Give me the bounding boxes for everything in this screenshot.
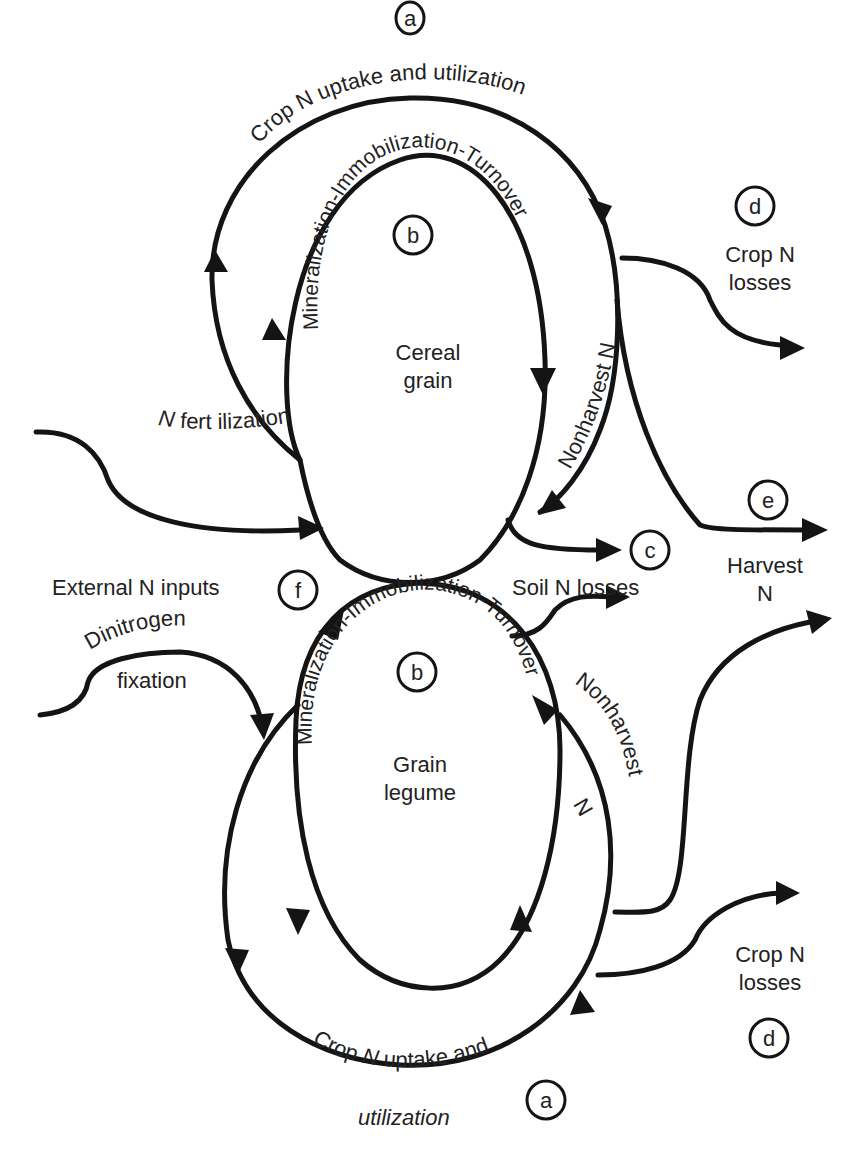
fixation-label: fixation bbox=[117, 668, 187, 693]
marker-d-bottom: d bbox=[750, 1019, 788, 1057]
nonharvest-bottom-n-label: N bbox=[569, 794, 599, 820]
harvest-n-label-1: Harvest bbox=[727, 553, 803, 578]
arrow-head-icon bbox=[588, 198, 612, 225]
legume-crop-uptake-loop bbox=[225, 695, 611, 1065]
marker-e: e bbox=[749, 481, 787, 519]
svg-text:a: a bbox=[404, 6, 417, 31]
crop-uptake-bottom-label-2: utilization bbox=[358, 1105, 450, 1130]
svg-text:d: d bbox=[749, 194, 761, 219]
crop-losses-top-label-1: Crop N bbox=[725, 242, 795, 267]
arrow-head-icon bbox=[286, 908, 310, 935]
crop-losses-bottom-label-2: losses bbox=[739, 970, 801, 995]
cereal-grain-label-2: grain bbox=[404, 368, 453, 393]
arrow-head-icon bbox=[225, 948, 249, 975]
soil-n-losses-legume-flow bbox=[512, 596, 612, 636]
mit-bottom-label: Mineralization-Immobilization-Turnover bbox=[292, 571, 545, 746]
crop-uptake-bottom-label: Crop N uptake and bbox=[309, 1025, 492, 1072]
marker-d-top: d bbox=[736, 187, 774, 225]
svg-text:f: f bbox=[295, 578, 302, 603]
dinitrogen-label: Dinitrogen bbox=[80, 605, 186, 654]
n-fertilization-label: N fert ilization bbox=[157, 403, 291, 434]
svg-text:b: b bbox=[411, 660, 423, 685]
arrow-head-icon bbox=[596, 538, 622, 562]
nonharvest-bottom-label: Nonharvest bbox=[571, 667, 648, 778]
arrow-head-icon bbox=[802, 518, 828, 542]
marker-a-bottom: a bbox=[527, 1081, 565, 1119]
svg-text:c: c bbox=[645, 538, 656, 563]
arrow-head-icon bbox=[776, 881, 800, 905]
harvest-n-label-2: N bbox=[757, 581, 773, 606]
grain-legume-label-1: Grain bbox=[393, 752, 447, 777]
marker-f: f bbox=[279, 571, 317, 609]
cereal-crop-uptake-loop bbox=[204, 98, 618, 515]
marker-c: c bbox=[631, 531, 669, 569]
harvest-n-flow bbox=[617, 300, 805, 530]
marker-a-top: a bbox=[396, 2, 424, 34]
cereal-grain-label-1: Cereal bbox=[396, 340, 461, 365]
arrow-head-icon bbox=[298, 516, 324, 540]
arrow-head-icon bbox=[570, 990, 595, 1015]
external-inputs-label: External N inputs bbox=[52, 575, 220, 600]
arrow-head-icon bbox=[262, 318, 286, 340]
nitrogen-cycle-diagram: Crop N uptake and utilization Mineraliza… bbox=[0, 0, 857, 1154]
n-fertilization-flow bbox=[36, 432, 300, 531]
crop-losses-top-label-2: losses bbox=[729, 270, 791, 295]
marker-b-bottom: b bbox=[398, 653, 436, 691]
soil-n-losses-flow bbox=[508, 520, 600, 550]
arrow-head-icon bbox=[780, 336, 805, 360]
svg-text:b: b bbox=[407, 223, 419, 248]
grain-legume-label-2: legume bbox=[384, 780, 456, 805]
crop-losses-bottom-label-1: Crop N bbox=[735, 942, 805, 967]
soil-losses-label: Soil N losses bbox=[512, 575, 639, 600]
svg-text:a: a bbox=[540, 1088, 553, 1113]
svg-text:e: e bbox=[762, 488, 774, 513]
arrow-head-icon bbox=[806, 610, 832, 634]
svg-text:d: d bbox=[763, 1026, 775, 1051]
arrow-head-icon bbox=[204, 250, 228, 272]
marker-b-top: b bbox=[394, 216, 432, 254]
arrow-head-icon bbox=[530, 368, 556, 395]
